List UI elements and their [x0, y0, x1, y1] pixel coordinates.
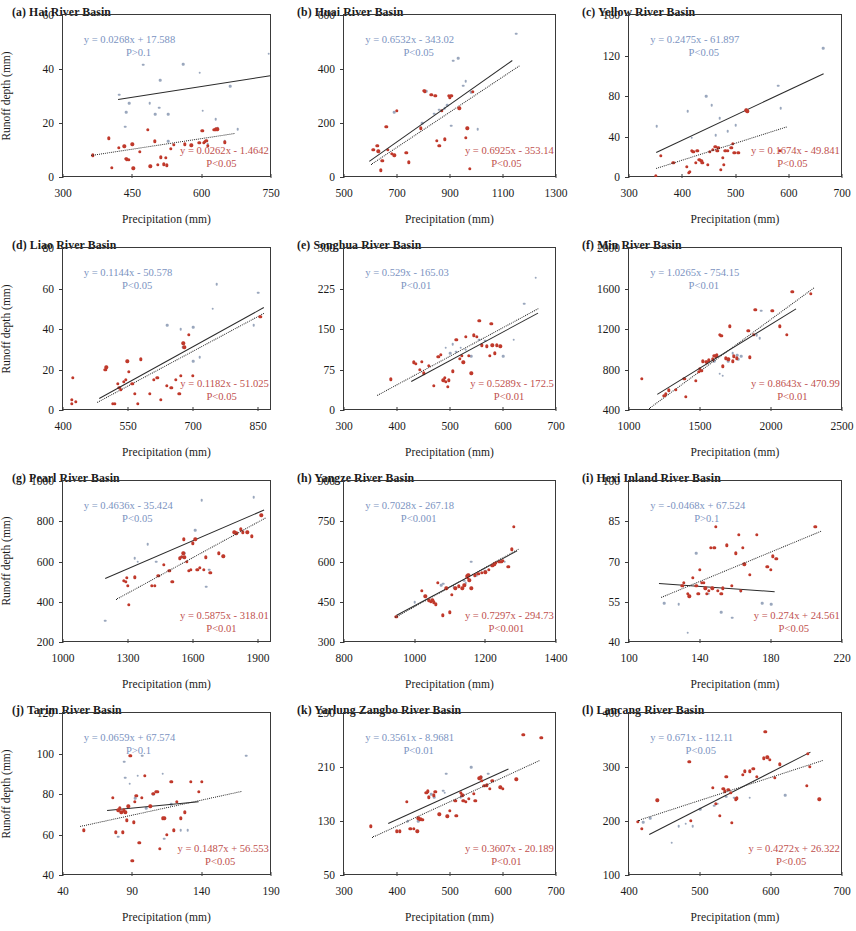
- regression-equation-red-l: y = 0.4272x + 26.322P<0.05: [748, 843, 839, 869]
- x-tick-label: 1300: [117, 652, 140, 664]
- data-point: [710, 104, 713, 107]
- data-point: [462, 84, 465, 87]
- data-point: [131, 859, 134, 862]
- data-point: [655, 125, 658, 128]
- data-point: [123, 145, 126, 148]
- x-tick-label: 220: [833, 652, 850, 664]
- p-value-text: P<0.05: [751, 158, 840, 171]
- data-point: [201, 110, 204, 113]
- data-point: [433, 790, 436, 793]
- data-point: [778, 325, 781, 328]
- y-tick-label: 80: [43, 242, 55, 254]
- data-point: [705, 95, 708, 98]
- x-tick-label: 400: [54, 420, 71, 432]
- equation-text: y = 0.1182x - 51.025: [180, 378, 269, 389]
- data-point: [432, 384, 435, 387]
- y-axis-label-d: Runoff depth (mm): [0, 247, 14, 410]
- data-point: [487, 568, 490, 571]
- data-point: [470, 560, 473, 563]
- data-point: [158, 847, 161, 850]
- y-tick-label: 120: [603, 49, 620, 61]
- x-axis-label-c: Precipitation (mm): [628, 213, 842, 225]
- p-value-text: P<0.05: [465, 158, 554, 171]
- x-axis-label-l: Precipitation (mm): [628, 911, 842, 923]
- p-value-text: P<0.01: [180, 623, 269, 636]
- y-tick-label: 300: [603, 761, 620, 773]
- y-tick-label: 40: [43, 323, 55, 335]
- data-point: [200, 780, 203, 783]
- x-tick-label: 40: [57, 885, 69, 897]
- regression-equation-red-g: y = 0.5875x - 318.01P<0.01: [180, 610, 269, 636]
- data-point: [154, 113, 157, 116]
- data-point: [451, 343, 454, 346]
- data-point: [443, 137, 446, 140]
- x-tick-label: 1100: [492, 187, 515, 199]
- y-tick-label: 1200: [597, 323, 620, 335]
- regression-equation-red-b: y = 0.6925x - 353.14P<0.05: [465, 145, 554, 171]
- data-point: [420, 360, 423, 363]
- data-point: [140, 796, 143, 799]
- data-point: [267, 52, 270, 55]
- regression-equation-blue-f: y = 1.0265x - 754.15P<0.01: [650, 267, 739, 293]
- data-point: [450, 94, 453, 97]
- data-point: [691, 576, 694, 579]
- data-point: [229, 85, 232, 88]
- data-point: [165, 833, 168, 836]
- regression-equation-blue-c: y = 0.2475x - 61.897P<0.05: [650, 34, 739, 60]
- equation-text: y = 0.1487x + 56.553: [178, 843, 269, 854]
- data-point: [731, 360, 734, 363]
- data-point: [132, 167, 135, 170]
- data-point: [698, 568, 701, 571]
- data-point: [521, 733, 524, 736]
- data-point: [779, 107, 782, 110]
- y-tick-label: 800: [603, 363, 620, 375]
- data-point: [252, 496, 255, 499]
- data-point: [136, 402, 139, 405]
- x-tick-label: 900: [441, 187, 458, 199]
- data-point: [260, 514, 263, 517]
- x-tick-label: 300: [620, 187, 637, 199]
- data-point: [430, 93, 433, 96]
- y-tick-label: 55: [609, 596, 621, 608]
- data-point: [695, 584, 698, 587]
- y-axis-label-text: Runoff depth (mm): [0, 516, 12, 605]
- trend-line-red: [638, 760, 823, 821]
- x-tick-label: 500: [335, 187, 352, 199]
- data-point: [450, 124, 453, 127]
- data-point: [464, 800, 467, 803]
- data-point: [187, 333, 190, 336]
- x-tick-label: 100: [620, 652, 637, 664]
- y-tick-label: 0: [329, 171, 335, 183]
- data-point: [446, 815, 449, 818]
- data-point: [70, 398, 73, 401]
- y-tick-label: 0: [48, 171, 54, 183]
- y-axis-label-text: Runoff depth (mm): [0, 749, 12, 838]
- data-point: [502, 355, 505, 358]
- data-point: [398, 829, 401, 832]
- data-point: [458, 106, 461, 109]
- data-point: [785, 333, 788, 336]
- y-tick-label: 70: [609, 555, 621, 567]
- data-point: [720, 611, 723, 614]
- data-point: [448, 611, 451, 614]
- data-point: [443, 376, 446, 379]
- data-point: [148, 392, 151, 395]
- p-value-text: P<0.01: [470, 391, 554, 404]
- plot-area-i: 10014018022040557085100y = -0.0468x + 67…: [628, 480, 842, 642]
- regression-equation-red-a: y = 0.0262x - 1.4642P<0.05: [180, 145, 269, 171]
- data-point: [223, 140, 226, 143]
- regression-equation-red-h: y = 0.7297x - 294.73P<0.001: [465, 610, 554, 636]
- data-point: [434, 94, 437, 97]
- x-tick-label: 140: [193, 885, 210, 897]
- y-axis-label-text: Runoff depth (mm): [0, 284, 12, 373]
- data-point: [165, 384, 168, 387]
- regression-equation-red-d: y = 0.1182x - 51.025P<0.05: [180, 378, 269, 404]
- data-point: [515, 777, 518, 780]
- data-point: [211, 307, 214, 310]
- x-tick-label: 800: [335, 652, 352, 664]
- data-point: [688, 595, 691, 598]
- y-tick-label: 85: [609, 515, 621, 527]
- data-point: [117, 835, 120, 838]
- data-point: [375, 144, 378, 147]
- p-value-text: P>0.1: [84, 745, 175, 758]
